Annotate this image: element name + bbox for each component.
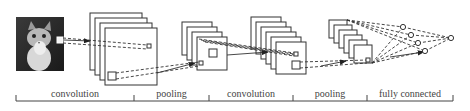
input-image [16,17,64,71]
receptive-field [294,52,298,56]
stage-label-pooling-1: pooling [134,88,209,100]
cnn-diagram: convolution pooling convolution pooling … [0,0,470,111]
pooling-window [292,61,300,69]
stage-label-fully-connected: fully connected [367,88,453,100]
fc-neuron [415,40,420,45]
pooling-window [108,72,116,80]
receptive-field [199,61,203,65]
dashed-connection [347,20,403,27]
stage-label-convolution-2: convolution [209,88,293,100]
layer-stack-pool2 [329,20,372,63]
dashed-connection [411,35,451,38]
dashed-connection [372,43,418,63]
layer-stack-pool1 [182,22,227,70]
fc-neuron [422,48,427,53]
conv-window [209,49,217,57]
fc-neuron [400,24,405,29]
feature-map [276,42,306,74]
fc-neuron [408,32,413,37]
receptive-field [366,58,370,62]
stage-label-pooling-2: pooling [293,88,367,100]
receptive-field-input [57,37,63,43]
connection-line [64,40,90,41]
feature-map-stacks [90,13,372,85]
dashed-connection [418,38,451,43]
receptive-field [147,44,151,48]
output-neuron [448,35,453,40]
connection-line [157,63,195,73]
stage-label-convolution-1: convolution [16,88,134,100]
